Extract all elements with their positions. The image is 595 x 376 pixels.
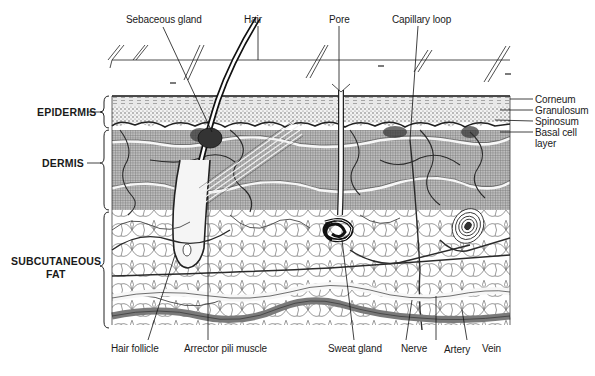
corneum-layer [112,96,510,106]
sebaceous-gland-shape [198,128,222,148]
label-vein: Vein [482,343,501,354]
label-granulosum: Granulosum [535,105,588,116]
label-subcutaneous-fat-line1: SUBCUTANEOUS [11,256,101,267]
label-sweat-gland: Sweat gland [328,343,382,354]
label-arrector-pili-muscle: Arrector pili muscle [184,343,267,354]
label-hair-follicle: Hair follicle [111,343,159,354]
label-dermis: DERMIS [42,158,84,169]
label-corneum: Corneum [535,94,575,105]
skin-cross-section-diagram [0,0,595,376]
label-subcutaneous-fat-line2: FAT [46,269,66,280]
label-hair: Hair [244,14,262,25]
label-nerve: Nerve [401,343,427,354]
label-capillary-loop: Capillary loop [392,14,451,25]
label-pore: Pore [329,14,350,25]
subcutaneous-fat-region [112,210,510,325]
left-braces [100,96,109,328]
label-sebaceous-gland: Sebaceous gland [126,14,202,25]
label-basal-cell-line1: Basal cell [535,127,577,138]
label-basal-cell-line2: layer [535,138,556,149]
label-artery: Artery [444,344,470,355]
label-epidermis: EPIDERMIS [37,107,97,118]
skin-surface-lines [108,45,511,83]
dermis-region [112,145,510,210]
label-spinosum: Spinosum [535,116,579,127]
